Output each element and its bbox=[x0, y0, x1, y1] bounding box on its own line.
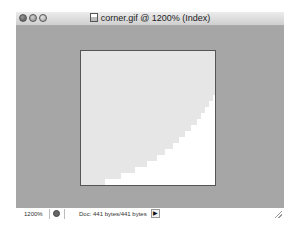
divider bbox=[49, 209, 50, 219]
document-window: corner.gif @ 1200% (Index) 1200% Doc: 44… bbox=[16, 12, 284, 222]
image-canvas[interactable] bbox=[80, 50, 216, 186]
canvas-workspace[interactable] bbox=[16, 26, 284, 208]
status-menu-arrow-icon[interactable]: ▶ bbox=[151, 209, 160, 218]
divider bbox=[64, 209, 65, 219]
status-icon[interactable] bbox=[53, 210, 60, 217]
document-size-info: Doc: 441 bytes/441 bytes bbox=[79, 210, 147, 218]
zoom-level-field[interactable]: 1200% bbox=[24, 210, 48, 218]
status-bar: 1200% Doc: 441 bytes/441 bytes ▶ bbox=[16, 208, 284, 220]
window-title-text: corner.gif @ 1200% (Index) bbox=[101, 13, 211, 23]
document-icon bbox=[90, 13, 98, 22]
resize-grip-icon[interactable] bbox=[275, 211, 282, 218]
corner-pixel-art bbox=[81, 51, 216, 186]
title-bar[interactable]: corner.gif @ 1200% (Index) bbox=[16, 12, 284, 26]
window-title: corner.gif @ 1200% (Index) bbox=[16, 13, 284, 24]
